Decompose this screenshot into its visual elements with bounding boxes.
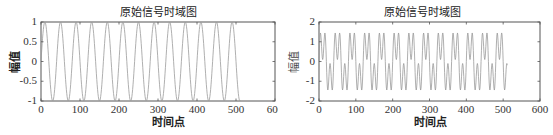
right-chart-title: 原始信号时域图 — [384, 5, 461, 19]
left-xtick-300: 300 — [150, 103, 167, 115]
left-ytick-neg1: -1 — [28, 94, 37, 106]
right-xtick-300: 300 — [422, 103, 439, 115]
left-ylabel: 幅值 — [8, 51, 22, 73]
left-ytick-neg0.5: -0.5 — [20, 74, 38, 86]
right-ytick-neg1: -1 — [306, 74, 315, 86]
left-xtick-100: 100 — [72, 103, 89, 115]
right-xlabel: 时间点 — [414, 115, 447, 129]
left-chart-title: 原始信号时域图 — [120, 5, 197, 19]
right-chart-svg: 原始信号时域图 2 1 0 -1 -2 0 100 200 300 400 50… — [278, 0, 553, 135]
left-xtick-0: 0 — [38, 103, 44, 115]
left-xtick-400: 400 — [189, 103, 206, 115]
left-chart-svg: 原始信号时域图 1 0.5 0 -0.5 -1 0 100 200 300 40… — [0, 0, 278, 135]
right-xtick-200: 200 — [385, 103, 402, 115]
right-xtick-600: 600 — [532, 103, 549, 115]
left-ytick-0.5: 0.5 — [23, 35, 37, 47]
right-signal-line — [319, 33, 507, 90]
right-ytick-1: 1 — [310, 35, 316, 47]
right-xtick-100: 100 — [348, 103, 365, 115]
right-xtick-400: 400 — [458, 103, 475, 115]
right-ylabel: 幅值 — [288, 51, 301, 73]
left-ytick-1: 1 — [32, 15, 38, 27]
left-xtick-600: 600 — [267, 103, 278, 115]
left-signal-line — [41, 22, 240, 101]
left-xtick-500: 500 — [228, 103, 245, 115]
right-xtick-0: 0 — [316, 103, 322, 115]
right-ytick-0: 0 — [310, 55, 316, 67]
left-ytick-0: 0 — [32, 55, 38, 67]
left-xlabel: 时间点 — [152, 115, 185, 129]
left-chart-panel: 原始信号时域图 1 0.5 0 -0.5 -1 0 100 200 300 40… — [0, 0, 278, 135]
left-xtick-200: 200 — [111, 103, 128, 115]
right-ytick-neg2: -2 — [306, 94, 315, 106]
right-xtick-500: 500 — [495, 103, 512, 115]
right-chart-panel: 原始信号时域图 2 1 0 -1 -2 0 100 200 300 400 50… — [278, 0, 553, 135]
right-ytick-2: 2 — [310, 15, 316, 27]
